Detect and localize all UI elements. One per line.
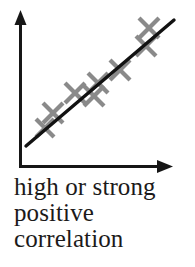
caption-line-1: high or strong bbox=[14, 174, 195, 200]
scatter-plot-svg bbox=[0, 0, 195, 175]
caption-line-2: positive bbox=[14, 200, 195, 226]
y-axis-arrowhead bbox=[15, 10, 27, 25]
scatter-plot-area bbox=[0, 0, 195, 175]
figure-caption: high or strong positive correlation bbox=[14, 174, 195, 252]
correlation-diagram-figure: high or strong positive correlation bbox=[0, 0, 195, 267]
x-axis-arrowhead bbox=[157, 160, 173, 173]
caption-line-3: correlation bbox=[14, 226, 195, 252]
trend-line bbox=[26, 20, 174, 146]
data-point-markers bbox=[36, 18, 159, 137]
